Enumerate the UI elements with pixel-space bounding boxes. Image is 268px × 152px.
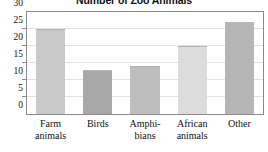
x-tick-label-line1: African	[177, 118, 208, 129]
y-tick-label: 25	[0, 16, 23, 25]
x-tick-label-line1: Birds	[87, 118, 109, 129]
x-tick-label-line1: Farm	[40, 118, 61, 129]
y-tick-label: 20	[0, 33, 23, 42]
x-tick-label-line2: animals	[169, 130, 216, 142]
x-tick-label-line2: bians	[121, 130, 168, 142]
y-tick-label: 5	[0, 84, 23, 93]
y-axis: 051015202530	[0, 11, 23, 115]
x-tick-label-line1: Amphi-	[129, 118, 160, 129]
bar	[225, 22, 254, 114]
x-tick-label: Other	[216, 118, 263, 130]
bar	[178, 46, 207, 114]
bar-slot	[36, 12, 65, 114]
bar-chart: Number of Zoo Animals 051015202530 Farma…	[0, 0, 268, 152]
y-tick-label: 30	[0, 0, 23, 8]
bar-slot	[178, 12, 207, 114]
bars-layer	[27, 12, 263, 114]
chart-title: Number of Zoo Animals	[0, 0, 268, 7]
y-tick-label: 0	[0, 101, 23, 110]
x-tick-label-line1: Other	[228, 118, 251, 129]
x-tick-label: Africananimals	[169, 118, 216, 141]
x-tick-label: Birds	[74, 118, 121, 130]
y-tick-label: 10	[0, 67, 23, 76]
x-tick-label: Amphi-bians	[121, 118, 168, 141]
x-tick-label: Farmanimals	[27, 118, 74, 141]
bar-slot	[130, 12, 159, 114]
x-axis: FarmanimalsBirdsAmphi-biansAfricananimal…	[26, 118, 264, 152]
y-tick-label: 15	[0, 50, 23, 59]
bar-slot	[83, 12, 112, 114]
bar	[36, 29, 65, 114]
bar	[130, 66, 159, 114]
bar-slot	[225, 12, 254, 114]
bar	[83, 70, 112, 114]
x-tick-label-line2: animals	[27, 130, 74, 142]
